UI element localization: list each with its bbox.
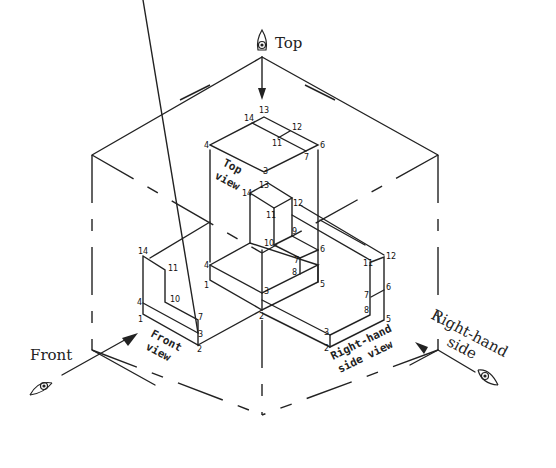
obj-label-5: 5 <box>320 280 325 289</box>
object-tower-top <box>250 183 292 208</box>
front-proj-bottom <box>198 310 262 345</box>
obj-label-11: 11 <box>266 211 276 220</box>
obj-label-13: 13 <box>259 181 269 190</box>
tv-label-13: 13 <box>259 106 269 115</box>
sv-label-6: 6 <box>386 283 391 292</box>
fv-label-11: 11 <box>168 264 178 273</box>
eye-icon-top <box>258 30 267 50</box>
eye-icon-front <box>30 383 52 396</box>
top-direction-label: Top <box>275 34 302 52</box>
box-edge-top-right <box>262 57 438 155</box>
tv-label-14: 14 <box>244 114 254 123</box>
top-arrow-head <box>258 88 266 100</box>
right-direction: Right-hand side <box>410 306 511 385</box>
front-view-line-4-3 <box>143 0 198 333</box>
object-base-top <box>210 243 318 293</box>
box-edge-top-left <box>92 57 262 155</box>
sv-label-7: 7 <box>364 291 369 300</box>
tv-label-7: 7 <box>304 153 309 162</box>
obj-label-4: 4 <box>204 261 209 270</box>
axis-right-diag <box>320 220 365 245</box>
sv-label-12: 12 <box>386 252 396 261</box>
side-view-line-7-6 <box>371 290 384 297</box>
top-view-line-12-11 <box>278 131 290 138</box>
obj-label-1: 1 <box>204 281 209 290</box>
tv-label-11: 11 <box>272 139 282 148</box>
front-view: 14 11 10 4 1 7 3 2 Front view <box>137 0 262 364</box>
obj-label-8: 8 <box>292 268 297 277</box>
obj-label-10: 10 <box>264 239 274 248</box>
sv-label-8: 8 <box>364 306 369 315</box>
eye-icon-right <box>478 370 498 385</box>
fv-label-3: 3 <box>198 330 203 339</box>
box-edge-top-dash-left <box>180 85 210 100</box>
sv-label-11: 11 <box>363 259 373 268</box>
side-view: 11 12 7 6 8 5 3 2 Right-hand side view <box>262 205 396 376</box>
top-direction: Top <box>258 30 303 100</box>
box-edge-bottom-left <box>92 350 262 415</box>
side-proj-11 <box>292 215 370 260</box>
box-edge-top-dash-right <box>305 85 335 100</box>
projection-diagram: 13 14 12 11 4 6 7 3 Top view 13 14 12 11… <box>0 0 556 468</box>
fv-label-7: 7 <box>198 313 203 322</box>
tv-label-3: 3 <box>263 167 268 176</box>
front-direction-label: Front <box>30 346 72 364</box>
front-axis-line <box>92 350 155 385</box>
fv-label-2: 2 <box>197 345 202 354</box>
fv-label-1: 1 <box>138 315 143 324</box>
obj-label-7: 7 <box>294 256 299 265</box>
obj-label-14: 14 <box>242 189 252 198</box>
fv-label-4: 4 <box>137 298 142 307</box>
object-step-top <box>292 236 318 250</box>
object-step-9-10 <box>274 236 292 245</box>
tv-label-6: 6 <box>320 141 325 150</box>
fv-label-10: 10 <box>170 295 180 304</box>
obj-label-9: 9 <box>292 227 297 236</box>
tv-label-4: 4 <box>204 141 209 150</box>
obj-label-6: 6 <box>320 245 325 254</box>
fv-label-14: 14 <box>138 247 148 256</box>
obj-label-3: 3 <box>264 287 269 296</box>
sv-label-3: 3 <box>324 328 329 337</box>
front-arrow-head <box>122 333 138 346</box>
tv-label-12: 12 <box>292 123 302 132</box>
object-step-6-7 <box>300 250 318 258</box>
right-arrow-head <box>415 342 428 354</box>
